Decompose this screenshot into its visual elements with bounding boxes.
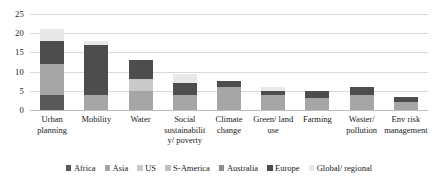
x-tick-label: Climate change [207,114,251,135]
legend-item[interactable]: Europe [267,163,300,173]
legend-label: Europe [275,163,300,173]
legend-label: Asia [113,163,129,173]
stacked-bar[interactable] [261,87,285,110]
bar-slot [207,14,251,110]
x-tick-label: Farming [295,114,339,125]
legend-label: US [145,163,156,173]
stacked-bar[interactable] [129,60,153,110]
y-tick-label: 5 [20,87,24,96]
stacked-bar-chart: 0510152025 Urban planningMobilityWaterSo… [0,0,438,185]
legend-item[interactable]: Asia [105,163,129,173]
y-tick-label: 20 [15,29,24,38]
bar-slot [74,14,118,110]
legend-label: S-America [173,163,210,173]
legend-swatch-icon [267,165,273,171]
legend-label: Australia [227,163,258,173]
bar-slot [340,14,384,110]
x-tick-label: Mobility [74,114,118,125]
stacked-bar[interactable] [217,81,241,110]
y-tick-label: 0 [20,106,24,115]
legend-label: Africa [74,163,96,173]
bar-slot [118,14,162,110]
bar-segment[interactable] [173,95,197,110]
x-axis-category-labels: Urban planningMobilityWaterSocial sustai… [30,114,428,158]
stacked-bar[interactable] [305,91,329,110]
y-tick-label: 25 [15,10,24,19]
bar-segment[interactable] [84,95,108,110]
legend-swatch-icon [165,165,171,171]
legend-swatch-icon [219,165,225,171]
bar-segment[interactable] [129,79,153,91]
bar-segment[interactable] [40,95,64,110]
y-tick-label: 15 [15,48,24,57]
bar-slot [30,14,74,110]
bar-segment[interactable] [394,102,418,110]
bar-segment[interactable] [350,87,374,95]
chart-legend: AfricaAsiaUSS-AmericaAustraliaEuropeGlob… [0,163,438,173]
legend-swatch-icon [66,165,72,171]
bar-segment[interactable] [40,29,64,41]
legend-item[interactable]: Global/ regional [309,163,372,173]
bar-segment[interactable] [40,41,64,64]
bar-segment[interactable] [305,98,329,110]
bar-segment[interactable] [129,60,153,79]
bar-segment[interactable] [40,64,64,95]
bar-slot [163,14,207,110]
legend-item[interactable]: Africa [66,163,96,173]
x-tick-label: Env risk management [384,114,428,135]
stacked-bar[interactable] [350,87,374,110]
x-tick-label: Social sustainability/ poverty [163,114,207,146]
bar-segment[interactable] [173,74,197,84]
legend-item[interactable]: Australia [219,163,258,173]
bar-segment[interactable] [350,95,374,110]
stacked-bar[interactable] [84,41,108,110]
x-tick-label: Water [118,114,162,125]
stacked-bar[interactable] [394,97,418,110]
legend-swatch-icon [309,165,315,171]
legend-item[interactable]: S-America [165,163,210,173]
x-tick-label: Green/ land use [251,114,295,135]
legend-swatch-icon [137,165,143,171]
bar-segment[interactable] [84,45,108,95]
bars-layer [30,14,428,110]
bar-segment[interactable] [173,83,197,95]
bar-segment[interactable] [305,91,329,99]
bar-segment[interactable] [129,91,153,110]
y-axis-labels: 0510152025 [0,0,28,110]
bar-slot [384,14,428,110]
bar-segment[interactable] [261,95,285,110]
bar-slot [295,14,339,110]
legend-swatch-icon [105,165,111,171]
bar-slot [251,14,295,110]
gridline [30,110,428,111]
legend-item[interactable]: US [137,163,156,173]
bar-segment[interactable] [217,87,241,110]
y-tick-label: 10 [15,68,24,77]
x-tick-label: Waster/ pollution [340,114,384,135]
x-tick-label: Urban planning [30,114,74,135]
stacked-bar[interactable] [173,74,197,110]
legend-label: Global/ regional [317,163,372,173]
stacked-bar[interactable] [40,29,64,110]
